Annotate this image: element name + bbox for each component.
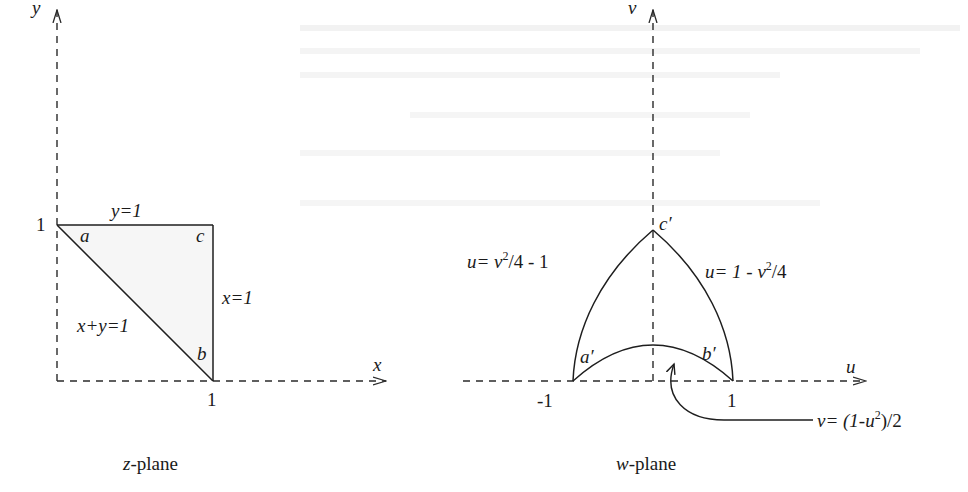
w-plane-panel: v u -1 1 c′ a′ b′ u= v2/4 - 1 u= 1 - v2/… [463,0,902,474]
z-plane-caption: z-plane [122,453,178,474]
vertex-a-prime-label: a′ [580,346,595,367]
u-axis-label: u [846,356,856,377]
u-tick-1: 1 [727,390,737,411]
vertex-c-label: c [196,225,205,246]
curve-right-u-equals-1-minus-v2-over-4 [653,230,733,381]
y-axis-label: y [30,0,41,18]
y-tick-1: 1 [36,214,46,235]
vertex-b-label: b [197,343,207,364]
vertex-c-prime-label: c′ [659,213,672,234]
v-axis-label: v [628,0,637,18]
callout-arrow [671,364,813,420]
bottom-curve-label: v= (1-u2)/2 [817,408,902,432]
vertex-a-label: a [80,225,90,246]
left-curve-label: u= v2/4 - 1 [467,249,549,272]
x-axis-label: x [372,354,382,375]
bleed-through-text [300,25,960,206]
conformal-mapping-figure: y x 1 1 y=1 x=1 x+y=1 a c b z-plane v u … [0,0,968,492]
edge-right-label: x=1 [221,287,253,308]
x-tick-1: 1 [207,389,217,410]
edge-top-label: y=1 [109,200,142,221]
z-plane-panel: y x 1 1 y=1 x=1 x+y=1 a c b z-plane [30,0,386,474]
vertex-b-prime-label: b′ [702,343,717,364]
u-tick-neg1: -1 [537,390,553,411]
edge-diagonal-label: x+y=1 [76,315,129,336]
w-plane-caption: w-plane [616,453,676,474]
right-curve-label: u= 1 - v2/4 [705,259,787,282]
